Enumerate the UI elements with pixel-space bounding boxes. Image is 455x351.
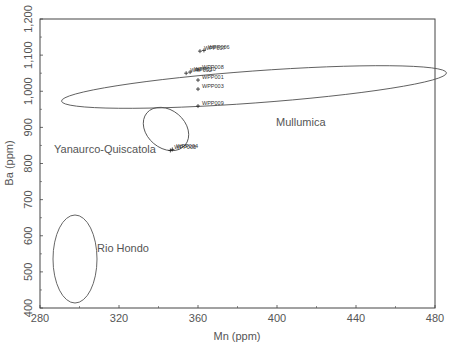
y-tick-label: 500	[22, 263, 34, 281]
y-axis-title: Ba (ppm)	[3, 140, 15, 185]
region-ellipses	[53, 57, 448, 303]
y-tick-label: 700	[22, 190, 34, 208]
y-tick-label: 600	[22, 227, 34, 245]
y-tick-label: 800	[22, 154, 34, 172]
region-label-mullumica: Mullumica	[276, 116, 326, 128]
x-tick-label: 280	[31, 312, 49, 324]
x-tick-label: 400	[268, 312, 286, 324]
point-label: WPP003	[202, 83, 224, 89]
rio-hondo-ellipse	[53, 215, 97, 303]
x-tick-label: 320	[110, 312, 128, 324]
y-tick-label: 1,000	[22, 77, 34, 105]
point-label: WPP001	[202, 74, 224, 80]
scatter-chart: 4005006007008009001,0001,1001,200 280320…	[0, 0, 455, 351]
x-tick-label: 360	[189, 312, 207, 324]
x-tick-label: 440	[347, 312, 365, 324]
data-point: WPP003	[196, 83, 224, 91]
point-label: WPP010	[194, 66, 216, 72]
x-tick-label: 480	[426, 312, 444, 324]
point-label: WPP006	[208, 44, 230, 50]
region-label-rio-hondo: Rio Hondo	[97, 242, 149, 254]
mullumica-ellipse	[60, 57, 447, 117]
y-tick-label: 1,100	[22, 41, 34, 69]
data-points: WPP007WPP006WPP008WPP002WPP010WPP001WPP0…	[168, 44, 229, 152]
y-tick-label: 900	[22, 118, 34, 136]
region-label-yanaurco-quiscatola: Yanaurco-Quiscatola	[54, 143, 157, 155]
point-label: WPP009	[202, 100, 224, 106]
point-label: WPP005	[174, 144, 196, 150]
data-point: WPP009	[196, 100, 224, 108]
x-axis-title: Mn (ppm)	[213, 330, 260, 342]
y-tick-label: 1,200	[22, 5, 34, 33]
plot-frame	[40, 19, 435, 308]
